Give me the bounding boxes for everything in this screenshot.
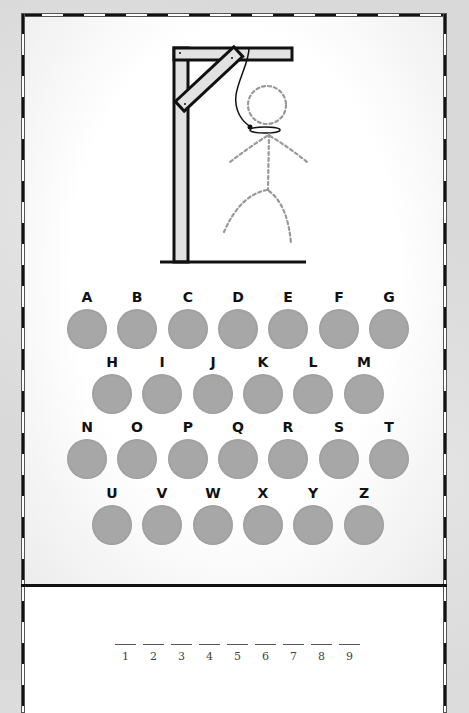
key-d[interactable]: D bbox=[218, 289, 258, 349]
key-disc[interactable] bbox=[243, 505, 283, 545]
key-label: L bbox=[293, 354, 333, 370]
key-label: H bbox=[92, 354, 132, 370]
slot-underline bbox=[255, 644, 276, 645]
key-label: A bbox=[67, 289, 107, 305]
slot-number: 3 bbox=[171, 650, 192, 663]
key-a[interactable]: A bbox=[67, 289, 107, 349]
hangman-figure-icon bbox=[224, 86, 307, 244]
key-disc[interactable] bbox=[344, 374, 384, 414]
slot-underline bbox=[115, 644, 136, 645]
key-disc[interactable] bbox=[369, 309, 409, 349]
key-x[interactable]: X bbox=[243, 485, 283, 545]
key-h[interactable]: H bbox=[92, 354, 132, 414]
slot-number: 7 bbox=[283, 650, 304, 663]
slot-number: 9 bbox=[339, 650, 360, 663]
key-u[interactable]: U bbox=[92, 485, 132, 545]
figure-left-leg bbox=[224, 190, 267, 232]
key-w[interactable]: W bbox=[193, 485, 233, 545]
letter-slot-4: 4 bbox=[199, 644, 220, 666]
key-k[interactable]: K bbox=[243, 354, 283, 414]
slot-number: 4 bbox=[199, 650, 220, 663]
key-label: R bbox=[268, 419, 308, 435]
key-p[interactable]: P bbox=[168, 419, 208, 479]
key-e[interactable]: E bbox=[268, 289, 308, 349]
key-disc[interactable] bbox=[92, 374, 132, 414]
key-disc[interactable] bbox=[293, 374, 333, 414]
slot-underline bbox=[143, 644, 164, 645]
slot-underline bbox=[339, 644, 360, 645]
key-label: J bbox=[193, 354, 233, 370]
key-j[interactable]: J bbox=[193, 354, 233, 414]
key-label: C bbox=[168, 289, 208, 305]
key-label: W bbox=[193, 485, 233, 501]
key-disc[interactable] bbox=[193, 505, 233, 545]
figure-right-leg bbox=[269, 191, 291, 244]
letter-slot-3: 3 bbox=[171, 644, 192, 666]
slot-number: 1 bbox=[115, 650, 136, 663]
key-disc[interactable] bbox=[168, 439, 208, 479]
key-i[interactable]: I bbox=[142, 354, 182, 414]
key-label: T bbox=[369, 419, 409, 435]
key-g[interactable]: G bbox=[369, 289, 409, 349]
key-o[interactable]: O bbox=[117, 419, 157, 479]
letter-slot-5: 5 bbox=[227, 644, 248, 666]
key-disc[interactable] bbox=[218, 309, 258, 349]
key-r[interactable]: R bbox=[268, 419, 308, 479]
key-label: K bbox=[243, 354, 283, 370]
letter-slot-1: 1 bbox=[115, 644, 136, 666]
slot-number: 2 bbox=[143, 650, 164, 663]
key-label: Q bbox=[218, 419, 258, 435]
key-z[interactable]: Z bbox=[344, 485, 384, 545]
key-n[interactable]: N bbox=[67, 419, 107, 479]
key-disc[interactable] bbox=[319, 439, 359, 479]
key-disc[interactable] bbox=[193, 374, 233, 414]
key-f[interactable]: F bbox=[319, 289, 359, 349]
key-disc[interactable] bbox=[293, 505, 333, 545]
slot-underline bbox=[227, 644, 248, 645]
key-disc[interactable] bbox=[67, 309, 107, 349]
letter-slot-7: 7 bbox=[283, 644, 304, 666]
key-disc[interactable] bbox=[92, 505, 132, 545]
key-disc[interactable] bbox=[117, 309, 157, 349]
key-label: G bbox=[369, 289, 409, 305]
key-t[interactable]: T bbox=[369, 419, 409, 479]
key-disc[interactable] bbox=[268, 309, 308, 349]
gallows-drawing bbox=[0, 0, 469, 280]
key-m[interactable]: M bbox=[344, 354, 384, 414]
slot-underline bbox=[171, 644, 192, 645]
figure-head bbox=[248, 86, 286, 124]
key-disc[interactable] bbox=[117, 439, 157, 479]
key-disc[interactable] bbox=[168, 309, 208, 349]
letter-slot-6: 6 bbox=[255, 644, 276, 666]
letter-slot-2: 2 bbox=[143, 644, 164, 666]
key-label: V bbox=[142, 485, 182, 501]
key-disc[interactable] bbox=[268, 439, 308, 479]
key-disc[interactable] bbox=[243, 374, 283, 414]
key-label: O bbox=[117, 419, 157, 435]
slot-underline bbox=[199, 644, 220, 645]
slot-number: 5 bbox=[227, 650, 248, 663]
key-v[interactable]: V bbox=[142, 485, 182, 545]
key-disc[interactable] bbox=[142, 505, 182, 545]
key-disc[interactable] bbox=[319, 309, 359, 349]
key-disc[interactable] bbox=[67, 439, 107, 479]
key-label: P bbox=[168, 419, 208, 435]
key-disc[interactable] bbox=[218, 439, 258, 479]
key-b[interactable]: B bbox=[117, 289, 157, 349]
figure-left-arm bbox=[230, 136, 267, 162]
key-label: I bbox=[142, 354, 182, 370]
key-c[interactable]: C bbox=[168, 289, 208, 349]
key-disc[interactable] bbox=[142, 374, 182, 414]
key-label: F bbox=[319, 289, 359, 305]
key-disc[interactable] bbox=[344, 505, 384, 545]
key-label: N bbox=[67, 419, 107, 435]
slot-number: 6 bbox=[255, 650, 276, 663]
key-disc[interactable] bbox=[369, 439, 409, 479]
key-label: D bbox=[218, 289, 258, 305]
letter-slot-8: 8 bbox=[311, 644, 332, 666]
key-q[interactable]: Q bbox=[218, 419, 258, 479]
key-label: B bbox=[117, 289, 157, 305]
key-y[interactable]: Y bbox=[293, 485, 333, 545]
key-l[interactable]: L bbox=[293, 354, 333, 414]
key-s[interactable]: S bbox=[319, 419, 359, 479]
